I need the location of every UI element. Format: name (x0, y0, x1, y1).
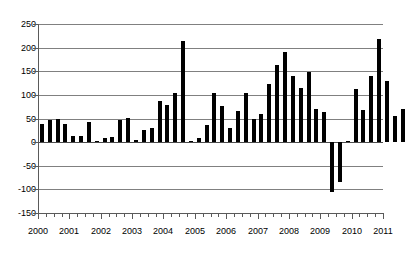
x-tick-mark-minor (124, 213, 125, 217)
x-tick-mark (195, 213, 196, 219)
x-tick-mark-minor (250, 213, 251, 217)
bar (56, 119, 60, 142)
y-tick-label: 150 (2, 67, 36, 76)
x-tick-mark-minor (273, 213, 274, 217)
bar (71, 136, 75, 143)
x-tick-mark (69, 213, 70, 219)
bar (134, 140, 138, 142)
gridline (38, 95, 383, 96)
y-axis-labels: 250200150100500-50-100-150 (0, 0, 36, 255)
x-tick-mark-minor (140, 213, 141, 217)
x-tick-mark-minor (46, 213, 47, 217)
x-tick-mark-minor (171, 213, 172, 217)
x-tick-mark-minor (54, 213, 55, 217)
x-tick-mark (352, 213, 353, 219)
bar (346, 141, 350, 142)
bar (126, 118, 130, 143)
x-tick-label: 2004 (148, 226, 178, 236)
x-tick-mark-minor (242, 213, 243, 217)
x-tick-mark-minor (265, 213, 266, 217)
bar (259, 114, 263, 142)
x-tick-label: 2006 (211, 226, 241, 236)
x-tick-mark-minor (85, 213, 86, 217)
x-tick-mark-minor (62, 213, 63, 217)
x-tick-label: 2002 (86, 226, 116, 236)
x-tick-mark-minor (179, 213, 180, 217)
bar (103, 138, 107, 142)
bar (165, 105, 169, 142)
bar (385, 81, 389, 142)
x-tick-mark (163, 213, 164, 219)
bar (79, 136, 83, 143)
bar (291, 76, 295, 142)
bar (236, 111, 240, 142)
x-tick-mark-minor (234, 213, 235, 217)
x-tick-mark-minor (203, 213, 204, 217)
gridline (38, 48, 383, 49)
x-tick-mark (226, 213, 227, 219)
y-tick-label: 0 (2, 138, 36, 147)
bar (197, 138, 201, 142)
x-tick-mark (38, 213, 39, 219)
bar (87, 122, 91, 142)
bar (361, 110, 365, 142)
x-tick-mark-minor (156, 213, 157, 217)
y-tick-label: 100 (2, 91, 36, 100)
x-tick-mark (320, 213, 321, 219)
x-tick-label: 2005 (180, 226, 210, 236)
bar (377, 39, 381, 142)
x-tick-mark-minor (109, 213, 110, 217)
x-tick-mark-minor (116, 213, 117, 217)
bar (228, 128, 232, 142)
bar (48, 120, 52, 142)
x-tick-mark (101, 213, 102, 219)
bar (322, 112, 326, 142)
bar (330, 142, 334, 192)
x-tick-mark-minor (344, 213, 345, 217)
bar (158, 101, 162, 143)
bar (95, 141, 99, 142)
gridline (38, 119, 383, 120)
bar (267, 84, 271, 142)
x-tick-mark-minor (187, 213, 188, 217)
x-tick-mark-minor (148, 213, 149, 217)
x-tick-mark (132, 213, 133, 219)
bar (283, 52, 287, 142)
x-tick-mark-minor (336, 213, 337, 217)
x-tick-mark-minor (218, 213, 219, 217)
bar (299, 88, 303, 142)
x-tick-mark-minor (297, 213, 298, 217)
bar (110, 137, 114, 142)
bar (189, 141, 193, 142)
x-tick-mark-minor (93, 213, 94, 217)
bar (118, 120, 122, 142)
x-tick-mark-minor (305, 213, 306, 217)
bar (63, 124, 67, 142)
bar (252, 119, 256, 142)
x-tick-mark-minor (211, 213, 212, 217)
x-tick-label: 2008 (274, 226, 304, 236)
bar (150, 128, 154, 142)
bar (369, 76, 373, 143)
y-tick-label: 200 (2, 44, 36, 53)
x-tick-mark (383, 213, 384, 219)
x-tick-label: 2011 (368, 226, 398, 236)
y-tick-label: -50 (2, 162, 36, 171)
plot-area (38, 24, 383, 213)
gridline (38, 71, 383, 72)
bar (181, 41, 185, 143)
bar (212, 93, 216, 143)
x-tick-mark-minor (328, 213, 329, 217)
x-tick-mark (289, 213, 290, 219)
bar (40, 124, 44, 142)
bar (314, 109, 318, 142)
x-tick-mark-minor (367, 213, 368, 217)
y-tick-label: -100 (2, 185, 36, 194)
x-tick-mark-minor (77, 213, 78, 217)
x-tick-label: 2007 (243, 226, 273, 236)
bar (244, 93, 248, 143)
x-tick-label: 2000 (23, 226, 53, 236)
bar (220, 106, 224, 142)
bar (205, 125, 209, 142)
